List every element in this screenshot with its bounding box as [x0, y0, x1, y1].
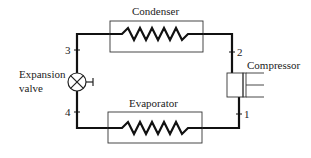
state-point-1: 1 [244, 108, 250, 120]
evaporator: Evaporator [108, 97, 202, 143]
condenser-coil [110, 28, 203, 40]
state-point-3: 3 [65, 44, 71, 56]
condenser: Condenser [110, 5, 203, 52]
compressor [227, 73, 264, 97]
evaporator-coil [108, 122, 202, 134]
expansion-valve-label-line2: valve [19, 82, 43, 94]
condenser-label: Condenser [132, 5, 179, 17]
refrigeration-cycle-diagram: Condenser Evaporator Expansion valve Com… [0, 0, 311, 158]
refrigerant-loop [77, 34, 239, 128]
state-point-4: 4 [65, 106, 71, 118]
state-point-2: 2 [237, 46, 243, 58]
evaporator-label: Evaporator [129, 97, 178, 109]
expansion-valve-label-line1: Expansion [19, 68, 66, 80]
compressor-label: Compressor [247, 59, 301, 71]
expansion-valve: Expansion valve [19, 68, 93, 94]
